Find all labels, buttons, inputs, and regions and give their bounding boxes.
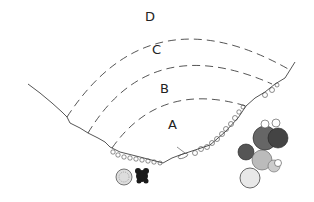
tree-cluster-right — [238, 119, 288, 188]
shoreline — [28, 62, 295, 163]
boundary-b — [88, 65, 272, 133]
zone-label-d: D — [145, 10, 155, 23]
zone-label-a: A — [168, 118, 177, 131]
zone-label-c: C — [152, 43, 161, 56]
boundary-a — [112, 99, 246, 148]
shrub-cluster-left — [116, 168, 149, 185]
cove-diagram — [0, 0, 314, 202]
zone-label-b: B — [160, 82, 169, 95]
